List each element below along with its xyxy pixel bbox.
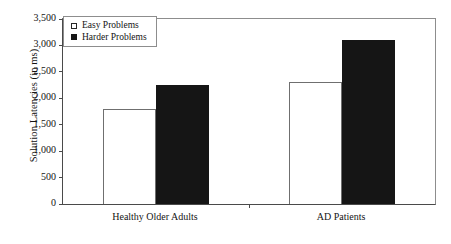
y-tick-label: 2,500 (34, 65, 57, 76)
bar-chart-figure: Solution Latencies (in ms) 05001,0001,50… (0, 0, 451, 244)
legend-swatch-open-square-icon (71, 23, 77, 29)
legend-item-easy-problems: Easy Problems (71, 20, 147, 32)
legend-swatch-filled-square-icon (71, 34, 77, 40)
legend-label-easy-problems: Easy Problems (82, 20, 139, 32)
y-tick-mark (59, 204, 63, 205)
legend-label-harder-problems: Harder Problems (82, 32, 147, 44)
y-tick-mark (59, 124, 63, 125)
y-tick-label: 0 (51, 197, 56, 208)
y-tick-label: 3,500 (34, 12, 57, 23)
bar-easy-group-0 (103, 109, 156, 204)
y-tick-label: 1,500 (34, 118, 57, 129)
x-axis-label-group-1: AD Patients (241, 211, 441, 222)
bar-harder-group-0 (156, 85, 209, 204)
y-tick-label: 500 (41, 171, 56, 182)
x-tick-mark (249, 204, 250, 208)
chart-legend: Easy Problems Harder Problems (63, 16, 157, 47)
legend-item-harder-problems: Harder Problems (71, 32, 147, 44)
bar-easy-group-1 (289, 82, 342, 204)
y-tick-label: 2,000 (34, 91, 57, 102)
y-tick-mark (59, 98, 63, 99)
y-tick-label: 3,000 (34, 38, 57, 49)
y-tick-mark (59, 71, 63, 72)
y-tick-mark (59, 151, 63, 152)
bar-harder-group-1 (342, 40, 395, 204)
y-tick-mark (59, 177, 63, 178)
x-axis-label-group-0: Healthy Older Adults (55, 211, 255, 222)
y-tick-label: 1,000 (34, 144, 57, 155)
